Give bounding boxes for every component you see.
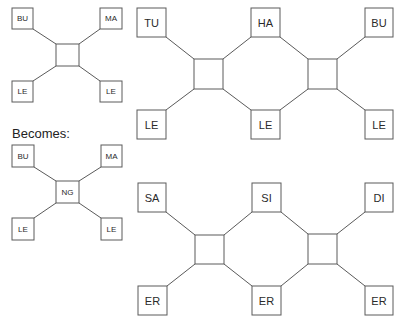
node-di: DI: [365, 183, 393, 212]
node-label: LE: [107, 225, 117, 234]
node-tu: TU: [137, 8, 166, 37]
node-bu: BU: [12, 145, 34, 167]
center-node: [308, 234, 337, 264]
node-le: LE: [251, 110, 280, 139]
node-le: LE: [365, 110, 393, 139]
node-le: LE: [12, 81, 33, 102]
node-ma: MA: [100, 8, 122, 29]
node-label: ER: [259, 295, 274, 307]
edge: [337, 89, 365, 110]
edge: [34, 167, 56, 181]
edge: [281, 264, 308, 286]
node-sa: SA: [138, 183, 166, 212]
node-label: NG: [62, 188, 74, 197]
node-bu: BU: [12, 8, 33, 29]
node-label: BU: [17, 152, 28, 161]
edge: [280, 89, 308, 110]
node-label: LE: [145, 119, 158, 131]
edge: [79, 66, 100, 81]
node-label: MA: [106, 152, 119, 161]
node-ma: MA: [101, 145, 122, 167]
edge: [224, 212, 252, 235]
node-le: LE: [12, 218, 34, 240]
edge: [33, 66, 56, 81]
diagram-chain-bottom: SA SI DI ER ER ER: [138, 183, 393, 315]
edge: [79, 203, 101, 218]
node-label: TU: [144, 17, 159, 29]
node-label: LE: [18, 87, 28, 96]
diagram-chain-top: TU HA BU LE LE LE: [137, 8, 393, 139]
node-er: ER: [138, 286, 167, 315]
edge: [223, 89, 251, 110]
edge: [34, 203, 56, 218]
edge: [337, 264, 365, 286]
node-label: SI: [261, 192, 271, 204]
diagram-before: BU MA LE LE: [12, 8, 122, 102]
node-label: LE: [372, 119, 385, 131]
edge: [167, 264, 195, 286]
node-label: DI: [374, 192, 385, 204]
node-si: SI: [252, 183, 281, 212]
edge: [33, 29, 56, 44]
diagram-after: NG BU MA LE LE: [12, 145, 122, 240]
edge: [280, 37, 308, 59]
node-label: LE: [18, 225, 28, 234]
edge: [166, 89, 194, 110]
node-ha: HA: [251, 8, 280, 37]
node-label: ER: [371, 295, 386, 307]
center-node: [194, 59, 223, 89]
edge: [166, 37, 194, 59]
center-node: [56, 44, 79, 66]
center-node: [308, 59, 337, 89]
center-node: [195, 235, 224, 264]
edge: [337, 212, 365, 234]
node-le: LE: [100, 81, 122, 102]
edge: [166, 212, 195, 235]
edge: [281, 212, 308, 234]
node-bu: BU: [365, 8, 393, 37]
node-label: LE: [106, 87, 116, 96]
node-er: ER: [252, 286, 281, 315]
node-label: LE: [259, 119, 272, 131]
node-le: LE: [137, 110, 166, 139]
edge: [337, 37, 365, 59]
diagram-canvas: BU MA LE LE Becomes: NG BU: [0, 0, 404, 329]
node-label: BU: [17, 14, 28, 23]
node-er: ER: [365, 286, 393, 315]
edge: [79, 167, 101, 181]
node-label: SA: [145, 192, 160, 204]
node-label: MA: [105, 14, 118, 23]
node-label: HA: [258, 17, 274, 29]
node-label: BU: [371, 17, 386, 29]
center-node-ng: NG: [56, 181, 79, 203]
node-label: ER: [145, 295, 160, 307]
edge: [223, 37, 251, 59]
becomes-caption: Becomes:: [12, 126, 70, 141]
edge: [224, 264, 252, 286]
edge: [79, 29, 100, 44]
node-le: LE: [101, 218, 122, 240]
